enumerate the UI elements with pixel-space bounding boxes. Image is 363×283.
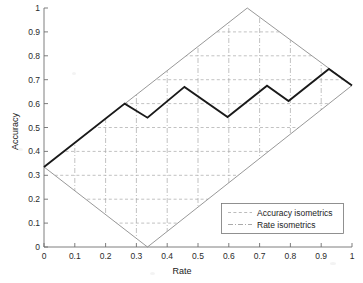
y-tick-label: 0 [35,242,40,252]
y-tick-label: 0.5 [28,123,40,133]
plot-canvas [0,0,363,283]
x-tick-label: 0.6 [223,251,235,261]
y-tick-label: 0.3 [28,170,40,180]
y-tick-label: 0.2 [28,194,40,204]
legend-label-rate: Rate isometrics [257,220,316,230]
x-tick-label: 0.5 [192,251,204,261]
x-axis-ticks [44,243,352,247]
x-tick-label: 1 [350,251,355,261]
x-tick-label: 0 [42,251,47,261]
x-tick-label: 0.8 [284,251,296,261]
y-tick-label: 0.1 [28,218,40,228]
y-axis-title: Accuracy [10,113,20,150]
legend-label-accuracy: Accuracy isometrics [257,208,333,218]
y-tick-label: 0.7 [28,75,40,85]
y-tick-label: 0.4 [28,146,40,156]
x-tick-label: 0.9 [315,251,327,261]
chart-figure: 00.10.20.30.40.50.60.70.80.91 00.10.20.3… [0,0,363,283]
y-tick-label: 0.6 [28,99,40,109]
y-tick-label: 0.8 [28,51,40,61]
x-tick-label: 0.4 [161,251,173,261]
x-tick-label: 0.7 [254,251,266,261]
y-tick-label: 0.9 [28,27,40,37]
x-tick-label: 0.3 [130,251,142,261]
x-axis-title: Rate [172,266,191,276]
x-tick-label: 0.2 [100,251,112,261]
x-tick-label: 0.1 [69,251,81,261]
y-axis-ticks [44,8,48,247]
y-tick-label: 1 [35,3,40,13]
